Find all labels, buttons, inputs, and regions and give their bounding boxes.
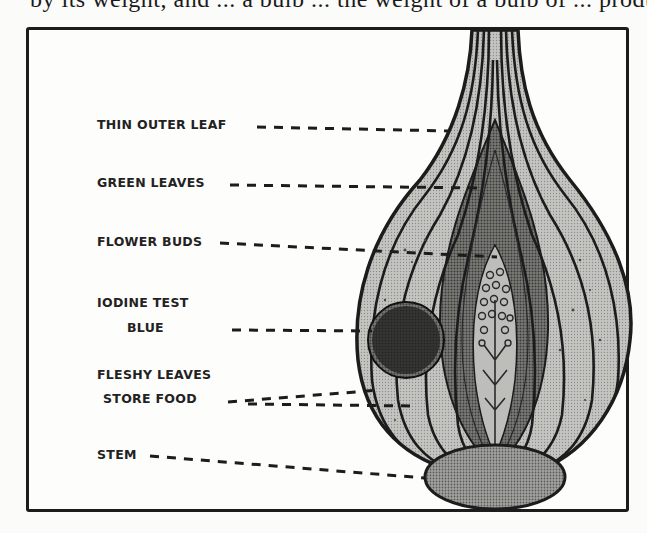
- leader-fleshy-leaves-upper: [228, 390, 380, 402]
- label-thin-outer-leaf: THIN OUTER LEAF: [97, 118, 227, 132]
- label-fleshy-leaves: FLESHY LEAVES: [97, 368, 211, 382]
- label-flower-buds: FLOWER BUDS: [97, 235, 202, 249]
- leader-iodine-test: [232, 330, 372, 331]
- label-iodine-test: IODINE TEST: [97, 296, 189, 310]
- label-green-leaves: GREEN LEAVES: [97, 176, 205, 190]
- leader-stem: [150, 456, 425, 478]
- stem-disc: [425, 445, 565, 509]
- label-stem: STEM: [97, 448, 137, 462]
- label-store-food: STORE FOOD: [103, 392, 197, 406]
- leader-fleshy-leaves-lower: [248, 404, 415, 406]
- leader-thin-outer-leaf: [257, 127, 450, 131]
- label-iodine-blue: BLUE: [127, 321, 164, 335]
